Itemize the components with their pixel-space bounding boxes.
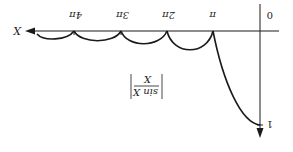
y-tick-label: 1 <box>267 119 273 130</box>
x-tick-3pi: 3π <box>116 10 129 21</box>
formula-denominator: X <box>143 74 152 85</box>
side-lobe-1 <box>167 31 213 50</box>
side-lobe-2 <box>121 31 167 44</box>
x-tick-pi: π <box>209 10 217 21</box>
y-axis-arrow-icon <box>257 128 264 138</box>
main-lobe-curve <box>213 31 260 125</box>
sinc-diagram: 0 1 π 2π 3π 4π X sin X X <box>0 0 293 152</box>
side-lobe-3 <box>74 31 121 41</box>
formula: sin X X <box>131 74 162 99</box>
x-tick-4pi: 4π <box>69 10 83 21</box>
x-tick-2pi: 2π <box>162 10 176 21</box>
formula-numerator: sin X <box>132 87 158 98</box>
x-axis-arrow-icon <box>25 28 35 35</box>
x-axis-label: X <box>12 24 22 37</box>
origin-label: 0 <box>267 10 273 21</box>
side-lobe-4 <box>37 31 74 39</box>
